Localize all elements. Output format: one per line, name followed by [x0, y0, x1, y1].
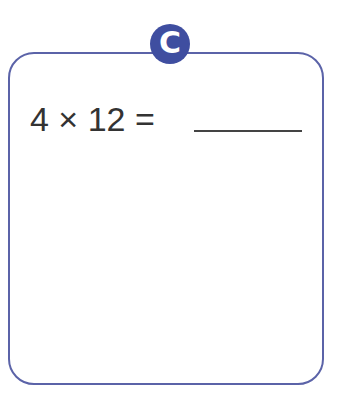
- section-badge: C: [150, 24, 190, 64]
- math-problem: 4 × 12 =: [30, 100, 155, 140]
- badge-label: C: [159, 28, 181, 58]
- problem-expression: 4 × 12 =: [30, 100, 155, 139]
- answer-blank[interactable]: [194, 130, 302, 132]
